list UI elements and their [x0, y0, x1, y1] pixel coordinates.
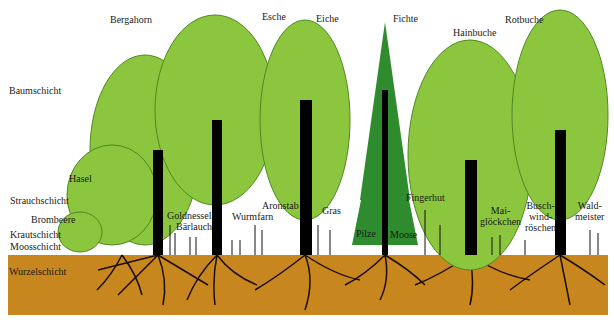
- label-wurzelschicht: Wurzelschicht: [9, 266, 66, 277]
- label-fingerhut: Fingerhut: [406, 192, 445, 203]
- label-baumschicht: Baumschicht: [9, 85, 61, 96]
- label-brombeere: Brombeere: [31, 214, 75, 225]
- label-gras: Gras: [322, 205, 341, 216]
- label-baerlauch: Bärlauch: [176, 221, 212, 232]
- label-buschwindroeschen-line3: röschen: [525, 222, 556, 233]
- label-hasel: Hasel: [69, 173, 92, 184]
- label-hainbuche: Hainbuche: [453, 27, 496, 38]
- label-aronstab: Aronstab: [262, 200, 299, 211]
- forest-illustration: [0, 0, 614, 323]
- forest-layers-diagram: Baumschicht Strauchschicht Krautschicht …: [0, 0, 614, 323]
- label-esche: Esche: [262, 11, 286, 22]
- label-buschwindroeschen-line2: wind-: [525, 211, 556, 222]
- label-maigloeckchen-line1: Mai-: [480, 205, 521, 216]
- label-buschwindroeschen-line1: Busch-: [525, 200, 556, 211]
- label-buschwindroeschen: Busch- wind- röschen: [525, 200, 556, 233]
- label-rotbuche: Rotbuche: [505, 14, 543, 25]
- label-waldmeister-line1: Wald-: [575, 200, 604, 211]
- label-maigloeckchen: Mai- glöckchen: [480, 205, 521, 227]
- label-goldnessel: Goldnessel: [167, 210, 211, 221]
- label-eiche: Eiche: [316, 13, 339, 24]
- label-fichte: Fichte: [393, 13, 418, 24]
- label-krautschicht: Krautschicht: [10, 229, 61, 240]
- label-moose: Moose: [390, 229, 417, 240]
- label-waldmeister-line2: meister: [575, 211, 604, 222]
- label-waldmeister: Wald- meister: [575, 200, 604, 222]
- label-maigloeckchen-line2: glöckchen: [480, 216, 521, 227]
- label-bergahorn: Bergahorn: [110, 14, 152, 25]
- label-wurmfarn: Wurmfarn: [232, 211, 273, 222]
- label-moosschicht: Moosschicht: [10, 241, 61, 252]
- label-strauchschicht: Strauchschicht: [10, 195, 69, 206]
- label-pilze: Pilze: [356, 228, 376, 239]
